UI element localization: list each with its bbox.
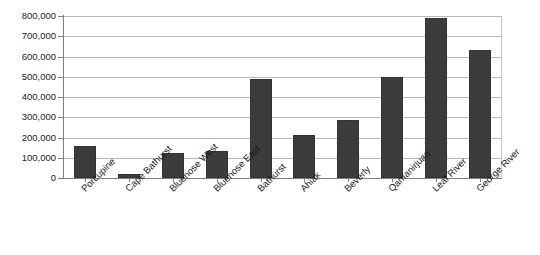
y-axis-tick bbox=[58, 57, 64, 58]
y-axis-tick bbox=[58, 97, 64, 98]
x-axis-category-label: Beverly bbox=[342, 164, 372, 194]
y-axis-tick bbox=[58, 158, 64, 159]
y-axis-tick bbox=[58, 16, 64, 17]
x-axis-category-label: Ahiak bbox=[298, 169, 323, 194]
x-axis-tick bbox=[261, 178, 262, 182]
x-axis-category-label: Leaf River bbox=[430, 155, 468, 193]
y-axis-tick bbox=[58, 117, 64, 118]
y-axis-tick bbox=[58, 138, 64, 139]
y-axis-tick bbox=[58, 77, 64, 78]
x-axis-tick bbox=[392, 178, 393, 182]
x-axis-category-label: Cape Bathurst bbox=[123, 143, 174, 194]
x-axis-category-label: Bluenose East bbox=[211, 143, 262, 194]
x-axis-tick bbox=[217, 178, 218, 182]
x-axis-tick bbox=[480, 178, 481, 182]
x-axis-category-label: George River bbox=[474, 146, 522, 194]
x-axis-category-label: Bathurst bbox=[255, 161, 288, 194]
y-axis-tick bbox=[58, 36, 64, 37]
x-axis-category-label: Porcupine bbox=[79, 156, 117, 194]
x-axis-tick bbox=[304, 178, 305, 182]
x-axis-tick bbox=[85, 178, 86, 182]
x-axis-tick bbox=[436, 178, 437, 182]
x-axis-tick bbox=[129, 178, 130, 182]
y-axis-tick bbox=[58, 178, 64, 179]
x-axis-tick bbox=[173, 178, 174, 182]
bar-chart: 0100,000200,000300,000400,000500,000600,… bbox=[0, 0, 540, 255]
x-axis-category-label: Qamanirjuaq bbox=[386, 148, 432, 194]
x-axis-tick bbox=[348, 178, 349, 182]
x-axis-tick-labels: PorcupineCape BathurstBluenose WestBluen… bbox=[0, 0, 540, 255]
